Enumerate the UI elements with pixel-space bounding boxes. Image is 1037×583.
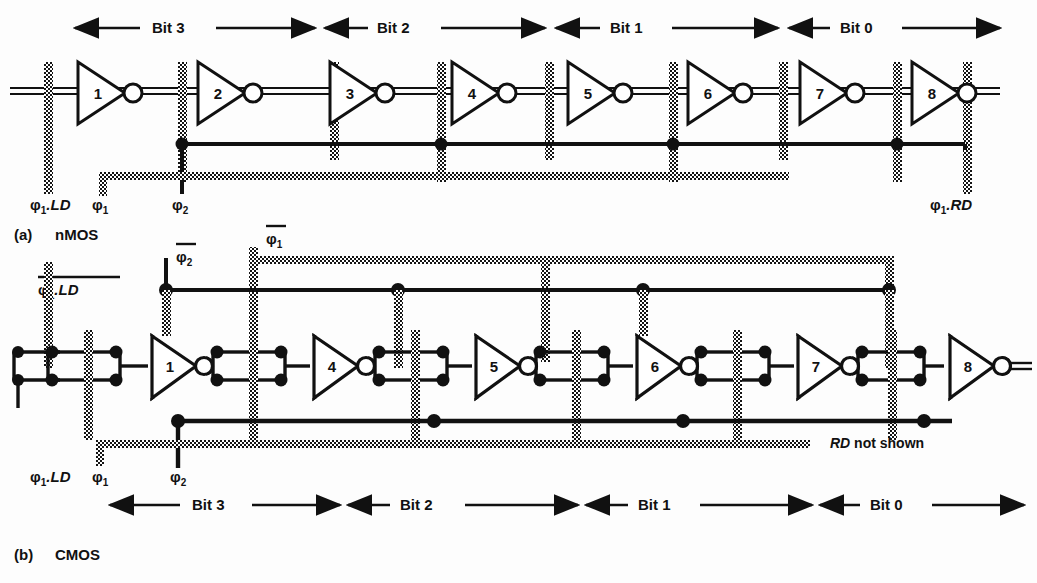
- junction-dot-nmos-2: [435, 138, 448, 151]
- caption-a-index: (a): [14, 226, 32, 243]
- junction-dot-cmos-b2: [427, 414, 441, 428]
- poly-bar-phi1-LD-nmos: [44, 62, 53, 194]
- caption-b-index: (b): [14, 546, 33, 563]
- phi-glyph-9: φ: [92, 468, 103, 485]
- phi-sub-3: 2: [183, 205, 189, 216]
- svg-text:RD not shown: RD not shown: [830, 435, 924, 451]
- dot-cmos-in-a: [12, 346, 24, 358]
- junction-dot-nmos-4: [891, 138, 904, 151]
- phi-sub-6: 2: [187, 257, 193, 268]
- phi-glyph-4: φ: [930, 196, 941, 213]
- inverter-7-label-nmos: 7: [816, 85, 824, 102]
- junction-dot-nmos-3: [667, 138, 680, 151]
- phi-sub-10: 2: [181, 477, 187, 488]
- inverter-1-label-nmos: 1: [94, 85, 102, 102]
- poly-bar-phi1-RD-nmos: [963, 62, 972, 194]
- inverter-1-label-cmos-2: 1: [166, 358, 174, 375]
- inverter-7-label-cmos: 7: [812, 358, 820, 375]
- poly-rail-phi1bar-cmos: [249, 256, 893, 264]
- bit2-label-cmos: Bit 2: [400, 496, 433, 513]
- inverter-2-label-nmos: 2: [214, 85, 222, 102]
- cmos-inverter-3-overlay: 1: [148, 336, 213, 398]
- phi-glyph-10: φ: [170, 468, 181, 485]
- poly-gate-tg3-cmos: [572, 330, 581, 440]
- bit1-label-nmos: Bit 1: [610, 19, 643, 36]
- circuit-diagram: Bit 3 Bit 2 Bit 1 Bit 0 1: [0, 0, 1037, 583]
- inverter-7-bubble-cmos: [842, 358, 859, 375]
- inverter-4-bubble-cmos: [358, 358, 375, 375]
- junction-dot-cmos-b3: [676, 414, 690, 428]
- rd-rest: not shown: [850, 435, 924, 451]
- caption-a: (a) nMOS: [14, 226, 98, 243]
- poly-drop-cmos-2: [394, 290, 403, 368]
- poly-bar-phi2-c-nmos: [669, 62, 678, 182]
- phi-glyph-2: φ: [92, 196, 103, 213]
- inverter-6-bubble-cmos: [681, 358, 698, 375]
- inverter-5-bubble-cmos: [520, 358, 537, 375]
- inverter-8-bubble-cmos: [994, 358, 1011, 375]
- rd-not-shown-annotation: RD not shown: [830, 435, 924, 451]
- phi-glyph-6: φ: [176, 248, 187, 265]
- bit1-label-cmos: Bit 1: [638, 496, 671, 513]
- inverter-8-label-nmos: 8: [928, 85, 936, 102]
- cmos-inverter-6-overlay: 6: [633, 336, 698, 398]
- bit2-label-nmos: Bit 2: [377, 19, 410, 36]
- phi-sub-9: 1: [103, 477, 109, 488]
- phi-sub-2: 1: [103, 205, 109, 216]
- phi-suffix-ld-1: .LD: [46, 196, 70, 213]
- phi-glyph-7: φ: [266, 230, 277, 247]
- bit3-label-nmos: Bit 3: [152, 19, 185, 36]
- inverter-4-label-cmos-2: 4: [328, 358, 337, 375]
- cmos-inverter-5-overlay: 5: [472, 336, 537, 398]
- cmos-inverter-4-overlay: 4: [310, 336, 375, 398]
- figure-root: Bit 3 Bit 2 Bit 1 Bit 0 1: [0, 0, 1037, 583]
- rd-italic: RD: [830, 435, 850, 451]
- phi-glyph-8: φ: [30, 468, 41, 485]
- phi-glyph-3: φ: [172, 196, 183, 213]
- inverter-3-bubble-cmos: [196, 358, 213, 375]
- phi-suffix-ld-2: .LD: [54, 281, 78, 298]
- caption-b-text: CMOS: [55, 546, 100, 563]
- phi-sub-7: 1: [277, 239, 283, 250]
- phi-suffix-rd: .RD: [946, 196, 972, 213]
- poly-gate-tg2-cmos: [411, 330, 420, 440]
- inverter-4-label-nmos: 4: [468, 85, 477, 102]
- phi-glyph-1: φ: [30, 196, 41, 213]
- inverter-6-label-nmos: 6: [704, 85, 712, 102]
- poly-gate-tg4-cmos: [733, 330, 742, 440]
- caption-a-text: nMOS: [55, 226, 98, 243]
- junction-dot-cmos-b4: [917, 414, 931, 428]
- inverter-5-label-nmos: 5: [584, 85, 592, 102]
- inverter-8-label-cmos: 8: [964, 358, 972, 375]
- bit3-label-cmos: Bit 3: [192, 496, 225, 513]
- bit0-label-nmos: Bit 0: [840, 19, 873, 36]
- bit0-label-cmos: Bit 0: [870, 496, 903, 513]
- inverter-5-label-cmos-2: 5: [490, 358, 498, 375]
- poly-gate-tg5-cmos: [888, 330, 897, 440]
- poly-gate-tg1-cmos: [249, 330, 258, 440]
- caption-b: (b) CMOS: [14, 546, 100, 563]
- poly-bar-phi2-b-nmos: [437, 62, 446, 182]
- poly-gate-tg0-cmos: [84, 330, 93, 440]
- phi-suffix-ld-3: .LD: [46, 468, 70, 485]
- poly-bar-phi2-d-nmos: [893, 62, 902, 182]
- cmos-inverter-7-overlay: 7: [794, 336, 859, 398]
- inverter-6-label-cmos-2: 6: [651, 358, 659, 375]
- inverter-3-label-nmos: 3: [346, 85, 354, 102]
